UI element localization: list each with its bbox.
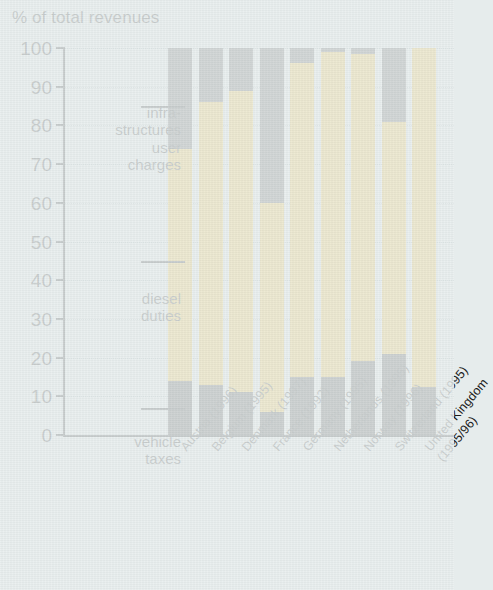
bar-segment-diesel-duties [351, 54, 375, 362]
y-axis-tick-mark [56, 86, 65, 88]
bar-segment-infrastructure-charges [199, 48, 223, 102]
bar-segment-diesel-duties [199, 102, 223, 385]
bar-belgium-1995 [199, 48, 223, 435]
y-axis-tick-mark [56, 318, 65, 320]
y-axis-tick-mark [56, 241, 65, 243]
annotation-vehicle-taxes: vehicle taxes [71, 433, 181, 468]
bar-segment-infrastructure-charges [351, 48, 375, 54]
bar-segment-infrastructure-charges [260, 48, 284, 203]
bar-segment-infrastructure-charges [290, 48, 314, 63]
y-axis-tick-label: 60 [31, 193, 52, 212]
bar-segment-infrastructure-charges [229, 48, 253, 91]
annotation-diesel-duties: diesel duties [71, 290, 181, 325]
annotation-leader-line [141, 106, 185, 108]
bar-france-1992 [260, 48, 284, 435]
y-axis-tick-label: 0 [41, 426, 52, 445]
bar-netherlands-1995 [321, 48, 345, 435]
y-axis-tick-mark [56, 202, 65, 204]
bar-segment-diesel-duties [229, 91, 253, 393]
y-axis-tick-mark [56, 124, 65, 126]
y-axis-tick-label: 10 [31, 387, 52, 406]
bar-segment-diesel-duties [412, 48, 436, 387]
y-axis-tick-label: 90 [31, 77, 52, 96]
y-axis-tick-label: 100 [20, 39, 52, 58]
y-axis-tick-mark [56, 357, 65, 359]
y-axis-tick-mark [56, 434, 65, 436]
y-axis-tick-label: 30 [31, 309, 52, 328]
y-axis-tick-label: 70 [31, 155, 52, 174]
y-axis-tick-mark [56, 279, 65, 281]
y-axis-tick-label: 40 [31, 271, 52, 290]
bar-segment-infrastructure-charges [382, 48, 406, 122]
y-axis-tick-mark [56, 395, 65, 397]
bar-segment-infrastructure-charges [321, 48, 345, 52]
bar-segment-diesel-duties [321, 52, 345, 377]
y-axis-tick-label: 20 [31, 348, 52, 367]
bar-segment-diesel-duties [290, 63, 314, 376]
bar-denmark-1997 [229, 48, 253, 435]
bar-segment-diesel-duties [168, 149, 192, 381]
bar-segment-diesel-duties [382, 122, 406, 354]
y-axis-tick-mark [56, 163, 65, 165]
y-axis-title: % of total revenues [12, 8, 159, 28]
annotation-infrastructure-charges: infra- structures user charges [71, 104, 181, 174]
annotation-leader-line [141, 261, 185, 263]
y-axis-tick-mark [56, 47, 65, 49]
annotation-leader-line [141, 408, 185, 410]
bar-united-kingdom-1995-96 [412, 48, 436, 435]
chart-plot-area: 0102030405060708090100 Austria (1996)Bel… [63, 48, 454, 437]
bar-germany-1995 [290, 48, 314, 435]
y-axis-tick-label: 80 [31, 116, 52, 135]
y-axis-tick-label: 50 [31, 232, 52, 251]
